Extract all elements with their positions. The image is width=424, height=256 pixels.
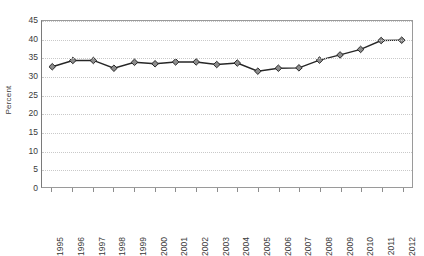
y-tick-label: 25 [29, 90, 38, 100]
data-point-marker [111, 65, 118, 72]
gridline [42, 152, 412, 153]
x-tick-mark [341, 188, 342, 192]
x-tick-label: 2010 [365, 237, 375, 256]
x-tick-label: 1997 [97, 237, 107, 256]
x-tick-label: 2001 [179, 237, 189, 256]
x-tick-label: 2006 [283, 237, 293, 256]
data-point-marker [296, 65, 303, 72]
data-point-marker [152, 61, 159, 68]
gridline [42, 133, 412, 134]
x-tick-label: 1995 [55, 237, 65, 256]
x-tick-mark [237, 188, 238, 192]
data-point-marker [255, 68, 262, 75]
gridline [42, 21, 412, 22]
x-tick-mark [217, 188, 218, 192]
gridline [42, 58, 412, 59]
data-point-marker [193, 59, 200, 66]
gridline [42, 77, 412, 78]
x-tick-label: 2000 [159, 237, 169, 256]
x-tick-label: 2008 [324, 237, 334, 256]
gridline [42, 114, 412, 115]
x-tick-mark [403, 188, 404, 192]
y-tick-label: 10 [29, 146, 38, 156]
data-point-marker [131, 59, 138, 66]
x-tick-mark [279, 188, 280, 192]
data-point-marker [172, 59, 179, 66]
gridline [42, 170, 412, 171]
series-polyline [52, 40, 401, 71]
y-tick-label: 5 [33, 164, 38, 174]
y-tick-label: 15 [29, 127, 38, 137]
y-tick-label: 45 [29, 15, 38, 25]
data-point-marker [234, 60, 241, 67]
x-tick-mark [93, 188, 94, 192]
y-tick-label: 35 [29, 52, 38, 62]
gridline [42, 40, 412, 41]
y-axis-tick-labels: 454035302520151050 [16, 0, 40, 242]
data-point-marker [213, 61, 220, 68]
x-tick-label: 2002 [200, 237, 210, 256]
x-tick-label: 2012 [407, 237, 417, 256]
data-point-marker [357, 46, 364, 53]
x-tick-mark [51, 188, 52, 192]
x-tick-mark [299, 188, 300, 192]
x-tick-label: 1998 [117, 237, 127, 256]
x-tick-mark [72, 188, 73, 192]
x-tick-label: 1999 [138, 237, 148, 256]
y-tick-label: 30 [29, 71, 38, 81]
x-tick-mark [196, 188, 197, 192]
x-tick-label: 2003 [221, 237, 231, 256]
plot-area [41, 20, 413, 188]
x-tick-mark [382, 188, 383, 192]
y-tick-label: 20 [29, 108, 38, 118]
x-tick-mark [134, 188, 135, 192]
data-point-marker [49, 63, 56, 70]
x-tick-mark [175, 188, 176, 192]
x-tick-mark [155, 188, 156, 192]
x-tick-label: 2007 [303, 237, 313, 256]
x-axis-tick-labels: 1995199619971998199920002001200220032004… [41, 193, 413, 242]
x-tick-label: 2004 [241, 237, 251, 256]
x-tick-mark [320, 188, 321, 192]
x-tick-mark [361, 188, 362, 192]
x-tick-label: 2005 [262, 237, 272, 256]
x-tick-mark [258, 188, 259, 192]
x-tick-label: 2009 [345, 237, 355, 256]
gridline [42, 96, 412, 97]
y-tick-label: 40 [29, 34, 38, 44]
y-tick-label: 0 [33, 183, 38, 193]
series-line [42, 21, 412, 187]
x-tick-mark [113, 188, 114, 192]
data-point-marker [275, 65, 282, 72]
x-tick-label: 2011 [386, 237, 396, 255]
data-point-marker [337, 52, 344, 59]
x-tick-label: 1996 [76, 237, 86, 256]
